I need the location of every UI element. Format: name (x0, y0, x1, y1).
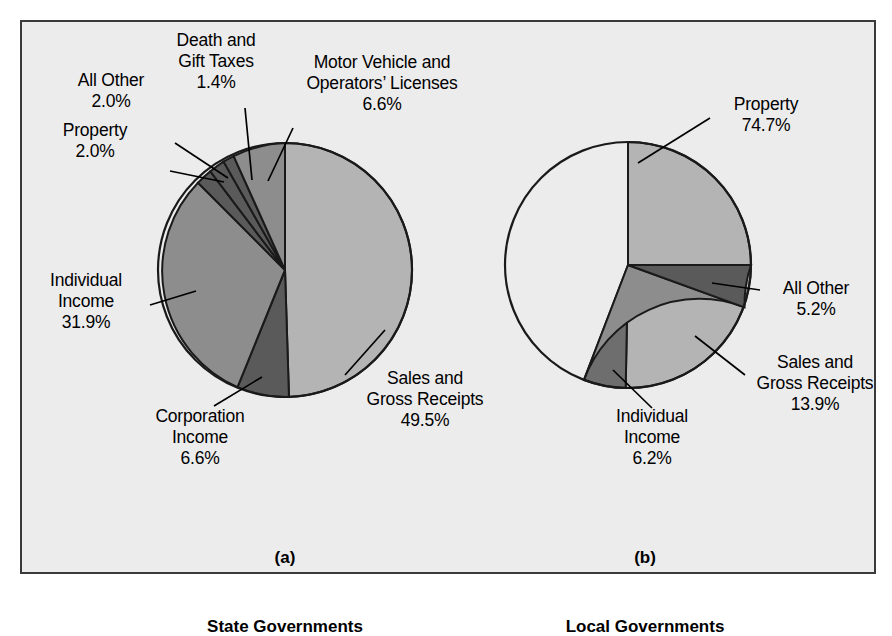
label-a-individual-income: Individual Income 31.9% (26, 270, 146, 333)
caption-panel-b: (b) Local Governments (520, 500, 770, 636)
label-b-individual-income: Individual Income 6.2% (590, 406, 714, 469)
label-a-sales-gross-receipts: Sales and Gross Receipts 49.5% (345, 368, 505, 431)
caption-b-label: (b) (520, 546, 770, 569)
label-b-sales-gross-receipts: Sales and Gross Receipts 13.9% (740, 352, 890, 415)
caption-b-title: Local Governments (520, 615, 770, 636)
label-a-all-other: All Other 2.0% (52, 70, 170, 112)
label-b-all-other: All Other 5.2% (756, 278, 876, 320)
label-a-corporation-income: Corporation Income 6.6% (130, 406, 270, 469)
label-b-property: Property 74.7% (706, 94, 826, 136)
label-a-death-gift-taxes: Death and Gift Taxes 1.4% (152, 30, 280, 93)
caption-panel-a: (a) State Governments (160, 500, 410, 636)
caption-a-title: State Governments (160, 615, 410, 636)
label-a-motor-vehicle-licenses: Motor Vehicle and Operators’ Licenses 6.… (278, 52, 486, 115)
label-a-property: Property 2.0% (36, 120, 154, 162)
caption-a-label: (a) (160, 546, 410, 569)
